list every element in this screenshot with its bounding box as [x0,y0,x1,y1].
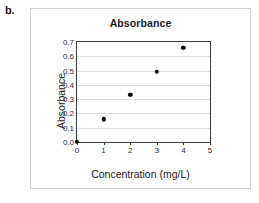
gridline [77,85,210,86]
data-point [75,140,79,144]
plot-area: 0.00.10.20.30.40.50.60.7 012345 [76,41,211,143]
x-axis-tick-label: 2 [128,146,132,155]
y-axis-tick-label: 0.6 [63,52,74,61]
gridline [77,113,210,114]
x-axis-tick-label: 3 [155,146,159,155]
gridline [77,99,210,100]
figure-container: b. Absorbance Absorbance 0.00.10.20.30.4… [0,0,259,203]
data-point [128,93,132,97]
y-axis-tick-label: 0.4 [63,80,74,89]
y-axis-tick-label: 0.3 [63,95,74,104]
x-axis-tick-mark [183,142,184,145]
chart-title: Absorbance [31,17,250,29]
x-axis-tick-label: 0 [75,146,79,155]
chart-panel: Absorbance Absorbance 0.00.10.20.30.40.5… [30,8,251,189]
x-axis-tick-label: 1 [101,146,105,155]
x-axis-tick-mark [130,142,131,145]
y-axis-tick-label: 0.1 [63,123,74,132]
x-axis-tick-mark [210,142,211,145]
data-point [101,117,105,121]
gridline [77,56,210,57]
gridline [77,71,210,72]
gridline [77,128,210,129]
y-axis-tick-label: 0.5 [63,66,74,75]
y-axis-tick-label: 0.7 [63,38,74,47]
x-axis-tick-label: 5 [208,146,212,155]
data-point [181,46,185,50]
data-point [155,70,159,74]
figure-label: b. [5,4,14,16]
x-axis-tick-mark [157,142,158,145]
x-axis-title: Concentration (mg/L) [31,168,250,180]
x-axis-tick-label: 4 [181,146,185,155]
y-axis-tick-label: 0.0 [63,138,74,147]
x-axis-tick-mark [104,142,105,145]
y-axis-tick-label: 0.2 [63,109,74,118]
